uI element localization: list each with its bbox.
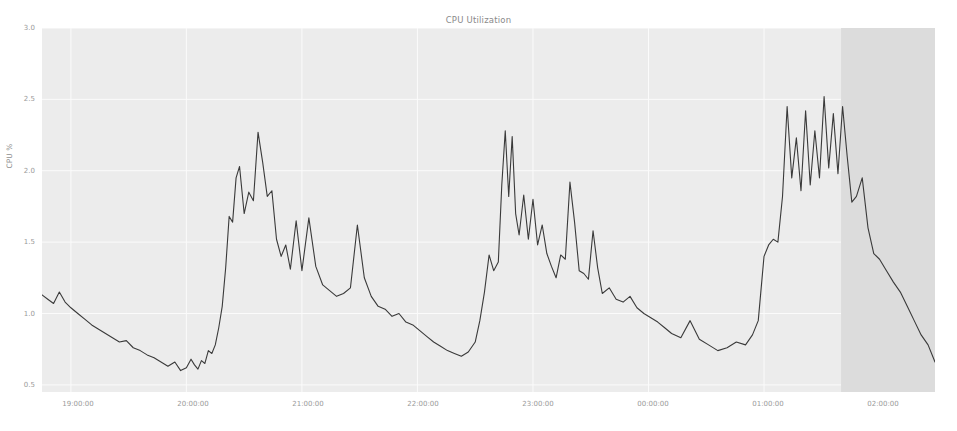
y-tick-label: 1.5 [5, 238, 35, 246]
highlight-band-region [841, 28, 935, 392]
x-tick-label: 20:00:00 [158, 400, 228, 408]
x-tick-label: 01:00:00 [733, 400, 803, 408]
y-tick-label: 2.5 [5, 95, 35, 103]
cpu-utilization-line-chart[interactable] [42, 28, 935, 392]
plot-area[interactable] [42, 28, 935, 392]
x-tick-label: 02:00:00 [848, 400, 918, 408]
chart-figure: CPU Utilization CPU % 3.0 2.5 2.0 1.5 1.… [0, 0, 957, 431]
y-tick-label: 1.0 [5, 310, 35, 318]
y-tick-label: 3.0 [5, 24, 35, 32]
y-tick-label: 0.5 [5, 381, 35, 389]
y-axis-label: CPU % [5, 126, 14, 186]
x-tick-label: 22:00:00 [388, 400, 458, 408]
x-tick-label: 23:00:00 [503, 400, 573, 408]
y-tick-label: 2.0 [5, 167, 35, 175]
x-tick-label: 21:00:00 [273, 400, 343, 408]
plot-background [42, 28, 935, 392]
chart-title: CPU Utilization [0, 15, 957, 25]
x-tick-label: 00:00:00 [618, 400, 688, 408]
x-tick-label: 19:00:00 [43, 400, 113, 408]
